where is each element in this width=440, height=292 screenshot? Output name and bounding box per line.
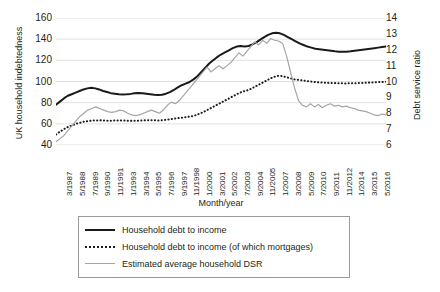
- legend-item-label: Household debt to income (of which mortg…: [122, 242, 313, 252]
- y-axis-left-tick-label: 100: [26, 77, 52, 87]
- x-axis-tick-label: 7/2003: [243, 172, 252, 196]
- y-axis-left-tick-label: 80: [26, 98, 52, 108]
- x-axis-tick-label: 3/2008: [294, 172, 303, 196]
- legend-item-label: Estimated average household DSR: [122, 259, 263, 269]
- y-axis-right-tick-label: 7: [386, 124, 410, 134]
- x-axis-tick-label: 9/1997: [180, 172, 189, 196]
- y-axis-left-tick-label: 120: [26, 55, 52, 65]
- legend-item-label: Household debt to income: [122, 225, 227, 235]
- y-axis-left-title: UK household indebtedness: [14, 8, 24, 158]
- y-axis-right-tick-label: 13: [386, 29, 410, 39]
- chart-figure: UK household indebtedness Debt service r…: [0, 0, 440, 292]
- x-axis-tick-label: 11/1991: [116, 168, 125, 196]
- x-axis-tick-label: 3/2001: [218, 172, 227, 196]
- legend-swatch-gray-line-icon: [85, 259, 115, 269]
- x-axis-tick-label: 9/2011: [332, 172, 341, 196]
- x-axis-tick-label: 5/1995: [154, 172, 163, 196]
- y-axis-right-tick-label: 11: [386, 61, 410, 71]
- y-axis-right-tick-label: 12: [386, 45, 410, 55]
- x-axis-tick-label: 5/2002: [230, 172, 239, 196]
- x-axis-tick-label: 9/1990: [103, 172, 112, 196]
- legend-item: Household debt to income: [85, 221, 343, 238]
- x-axis-tick-label: 11/2005: [268, 168, 277, 196]
- x-axis-tick-label: 7/1989: [91, 172, 100, 196]
- series-line: [56, 33, 386, 105]
- series-line: [56, 76, 386, 135]
- y-axis-right-tick-label: 6: [386, 140, 410, 150]
- x-axis-tick-label: 3/1987: [65, 172, 74, 196]
- plot-area: [56, 18, 386, 145]
- y-axis-right-tick-label: 9: [386, 92, 410, 102]
- legend-swatch-dotted-line-icon: [85, 242, 115, 252]
- y-axis-left-tick-label: 60: [26, 119, 52, 129]
- x-axis-tick-label: 9/2004: [256, 172, 265, 196]
- y-axis-left-tick-label: 40: [26, 140, 52, 150]
- x-axis-tick-label: 11/2012: [345, 168, 354, 196]
- x-axis-ticks: 3/19875/19887/19899/199011/19911/19933/1…: [56, 146, 386, 198]
- x-axis-tick-label: 11/1998: [192, 168, 201, 196]
- x-axis-tick-label: 5/1988: [78, 172, 87, 196]
- x-axis-tick-label: 5/2016: [383, 172, 392, 196]
- y-axis-left-tick-label: 160: [26, 13, 52, 23]
- x-axis-tick-label: 3/2015: [370, 172, 379, 196]
- y-axis-right-tick-label: 10: [386, 77, 410, 87]
- x-axis-tick-label: 1/2014: [357, 172, 366, 196]
- x-axis-tick-label: 1/2007: [281, 172, 290, 196]
- legend-item: Estimated average household DSR: [85, 255, 343, 272]
- x-axis-tick-label: 1/1993: [129, 172, 138, 196]
- x-axis-title: Month/year: [56, 198, 386, 208]
- legend-item: Household debt to income (of which mortg…: [85, 238, 343, 255]
- x-axis-tick-label: 7/2010: [319, 172, 328, 196]
- x-axis-tick-label: 5/2009: [307, 172, 316, 196]
- x-axis-tick-label: 7/1996: [167, 172, 176, 196]
- legend-swatch-solid-line-icon: [85, 225, 115, 235]
- y-axis-right-tick-label: 8: [386, 108, 410, 118]
- y-axis-right-tick-label: 14: [386, 13, 410, 23]
- chart-legend: Household debt to income Household debt …: [78, 216, 350, 278]
- y-axis-left-tick-label: 140: [26, 34, 52, 44]
- x-axis-tick-label: 3/1994: [142, 172, 151, 196]
- x-axis-tick-label: 1/2000: [205, 172, 214, 196]
- y-axis-right-title: Debt service ratio: [412, 20, 422, 150]
